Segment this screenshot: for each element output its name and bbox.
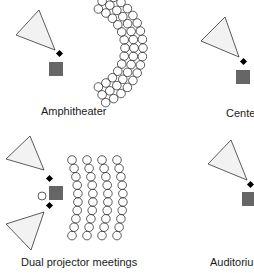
seat	[103, 181, 112, 190]
screen-icon	[208, 140, 247, 180]
screen-icon	[16, 10, 55, 50]
seat	[104, 198, 113, 207]
seat	[100, 164, 109, 173]
seat	[74, 198, 83, 207]
layout-label-auditorium: Auditorium	[210, 256, 254, 268]
seat	[68, 231, 77, 240]
seat	[119, 198, 128, 207]
seat	[98, 231, 107, 240]
seat	[113, 156, 122, 165]
seat	[87, 215, 96, 224]
seat	[118, 206, 127, 215]
seat	[123, 19, 132, 28]
seat	[98, 0, 107, 6]
screen-icon	[6, 212, 44, 250]
seat	[127, 27, 136, 36]
auditorium-layout	[208, 140, 254, 206]
layout-label-center: Center	[226, 107, 254, 119]
projector-icon	[242, 192, 254, 206]
layout-label-amphitheater: Amphitheater	[41, 105, 106, 117]
seat	[98, 91, 107, 100]
seat	[139, 44, 148, 53]
seat	[109, 94, 118, 103]
projector-icon	[49, 62, 63, 76]
seat	[136, 61, 145, 70]
seat	[117, 28, 126, 37]
seat	[127, 60, 136, 69]
seat	[88, 206, 97, 215]
seat	[102, 173, 111, 182]
seat	[115, 223, 124, 232]
seat	[83, 231, 92, 240]
seat	[85, 164, 94, 173]
layout-label-dual-projector: Dual projector meetings	[21, 256, 137, 268]
amphitheater-layout	[16, 0, 147, 107]
projector-icon	[236, 70, 250, 84]
seat	[118, 181, 127, 190]
seat	[102, 215, 111, 224]
seat	[85, 223, 94, 232]
seat	[115, 164, 124, 173]
seat	[87, 173, 96, 182]
seat	[133, 19, 142, 28]
dual-projector-layout	[6, 136, 127, 250]
seat	[121, 44, 130, 53]
seat	[83, 156, 92, 165]
seat	[88, 181, 97, 190]
seat	[98, 156, 107, 165]
seat	[119, 189, 128, 198]
speaker-icon	[56, 50, 63, 57]
seat	[70, 164, 79, 173]
seat	[136, 27, 145, 36]
seat	[113, 231, 122, 240]
layout-diagram	[0, 0, 254, 273]
seat	[129, 52, 138, 61]
presenter-seat	[38, 192, 46, 200]
seat	[129, 35, 138, 44]
seat	[89, 198, 98, 207]
seat	[120, 36, 129, 45]
seat	[94, 83, 103, 92]
seat	[103, 206, 112, 215]
seat	[89, 189, 98, 198]
seat	[120, 52, 129, 61]
seat	[138, 52, 147, 61]
seat	[117, 89, 126, 98]
seating-arc	[94, 0, 147, 107]
seat	[72, 215, 81, 224]
seat	[73, 206, 82, 215]
speaker-icon	[240, 58, 247, 65]
seat	[138, 35, 147, 44]
screen-icon	[201, 17, 239, 57]
projector-icon	[49, 186, 63, 200]
speaker-icon	[247, 181, 254, 188]
seat	[73, 181, 82, 190]
speaker-icon	[46, 175, 53, 182]
seat	[100, 223, 109, 232]
center-layout	[201, 17, 250, 84]
seat	[130, 44, 139, 53]
seat	[70, 223, 79, 232]
seat	[68, 156, 77, 165]
seating-columns	[68, 156, 128, 240]
seat	[117, 215, 126, 224]
speaker-icon	[46, 202, 53, 209]
seat	[117, 173, 126, 182]
seat	[74, 189, 83, 198]
seat	[72, 173, 81, 182]
seat	[104, 189, 113, 198]
screen-icon	[6, 136, 44, 170]
seat	[106, 87, 115, 96]
